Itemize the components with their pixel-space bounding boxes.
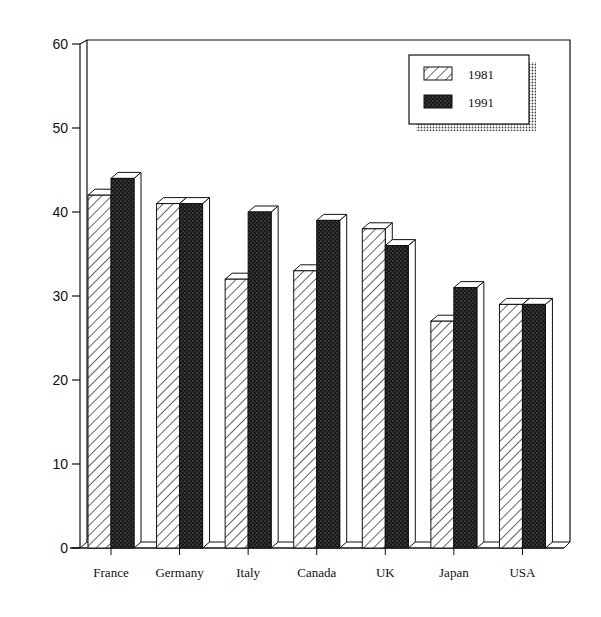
y-tick-label: 0 xyxy=(60,540,68,556)
bar-germany-1991 xyxy=(180,198,210,548)
legend: 1981 1991 xyxy=(409,55,536,131)
legend-swatch-1981 xyxy=(424,67,452,80)
bar-italy-1991 xyxy=(248,206,278,548)
y-tick-label: 20 xyxy=(52,372,68,388)
y-axis-labels: 0102030405060 xyxy=(52,36,68,556)
bar-canada-1991 xyxy=(317,214,347,548)
legend-label-1981: 1981 xyxy=(468,67,494,82)
x-label-usa: USA xyxy=(509,565,536,580)
x-label-canada: Canada xyxy=(297,565,336,580)
x-label-japan: Japan xyxy=(439,565,469,580)
bars-group xyxy=(88,172,552,548)
x-axis-labels: FranceGermanyItalyCanadaUKJapanUSA xyxy=(93,565,536,580)
y-tick-label: 40 xyxy=(52,204,68,220)
y-tick-label: 10 xyxy=(52,456,68,472)
x-label-italy: Italy xyxy=(236,565,260,580)
legend-label-1991: 1991 xyxy=(468,95,494,110)
x-label-germany: Germany xyxy=(155,565,204,580)
bar-uk-1991 xyxy=(385,240,415,548)
legend-box xyxy=(409,55,529,124)
legend-swatch-1991 xyxy=(424,95,452,108)
y-tick-label: 50 xyxy=(52,120,68,136)
y-tick-label: 60 xyxy=(52,36,68,52)
bar-france-1991 xyxy=(111,172,141,548)
bar-chart: 0102030405060 FranceGermanyItalyCanadaUK… xyxy=(0,0,601,617)
x-label-france: France xyxy=(93,565,129,580)
bar-japan-1991 xyxy=(454,282,484,548)
bar-usa-1991 xyxy=(522,298,552,548)
x-label-uk: UK xyxy=(376,565,395,580)
y-tick-label: 30 xyxy=(52,288,68,304)
